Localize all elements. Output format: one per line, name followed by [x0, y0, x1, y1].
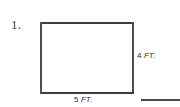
problem-number: 1. — [11, 18, 22, 32]
height-dimension-unit: FT. — [142, 51, 155, 60]
width-dimension-label: 5 FT. — [74, 95, 92, 105]
rectangle-figure — [40, 22, 133, 93]
answer-blank-line[interactable] — [141, 99, 180, 101]
worksheet-page: 1. 4 FT. 5 FT. — [0, 0, 180, 107]
width-dimension-unit: FT. — [79, 95, 92, 104]
rectangle-left-edge — [40, 22, 42, 94]
rectangle-bottom-edge — [40, 92, 134, 94]
height-dimension-label: 4 FT. — [137, 51, 155, 61]
rectangle-right-edge — [132, 22, 134, 94]
rectangle-top-edge — [40, 22, 134, 24]
